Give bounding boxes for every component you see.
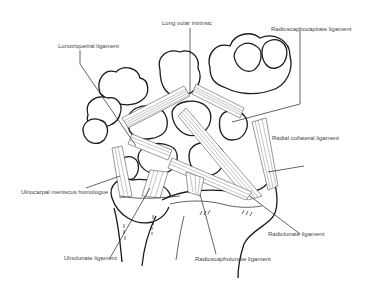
label-radioscapholunate-ligament: Radioscapholunate ligament [195,256,271,263]
label-long-volar-intrinsic: Long volar intrinsic [162,20,212,27]
label-radiolunate-ligament: Radiolunate ligament [268,231,324,238]
label-radial-collateral-ligament: Radial collateral ligament [272,135,339,142]
label-radioscaphocapitate-ligament: Radioscaphocapitate ligament [271,26,351,33]
wrist-ligament-illustration [0,0,368,298]
label-lunotriquetral-ligament: Lunotriquetral ligament [58,43,119,50]
label-ulnocarpal-meniscus-homologue: Ulnocarpal meniscus homologue [21,189,108,196]
label-ulnolunate-ligament: Ulnolunate ligament [64,255,117,262]
